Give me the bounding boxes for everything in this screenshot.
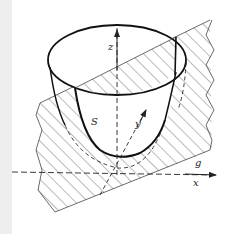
paraboloid-diagram: z y x S g bbox=[0, 0, 228, 234]
x-axis-label: x bbox=[193, 177, 199, 188]
z-axis-label: z bbox=[107, 41, 114, 52]
line-g-label: g bbox=[195, 157, 201, 168]
y-axis-label: y bbox=[134, 118, 141, 129]
surface-label: S bbox=[91, 116, 98, 127]
